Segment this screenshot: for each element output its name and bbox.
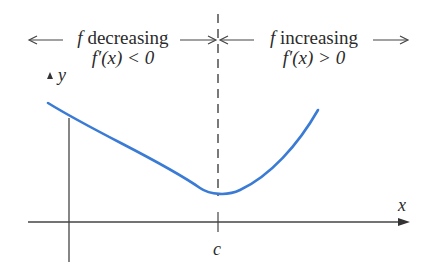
y-axis-arrowhead-icon	[47, 72, 53, 79]
left-region-text: decreasing	[87, 27, 168, 48]
right-derivative-condition: f′(x) > 0	[258, 48, 370, 67]
x-axis-arrowhead-icon	[398, 218, 410, 226]
right-fn-symbol: f	[270, 27, 275, 48]
right-region-label: f increasing	[258, 28, 370, 47]
function-curve	[48, 103, 318, 194]
left-derivative-condition: f′(x) < 0	[68, 48, 178, 67]
y-axis-label: y	[58, 66, 66, 84]
right-region-text: increasing	[280, 27, 358, 48]
left-fn-symbol: f	[77, 27, 82, 48]
tick-label-c: c	[213, 240, 221, 258]
x-axis-label: x	[398, 196, 406, 214]
left-region-label: f decreasing	[68, 28, 178, 47]
